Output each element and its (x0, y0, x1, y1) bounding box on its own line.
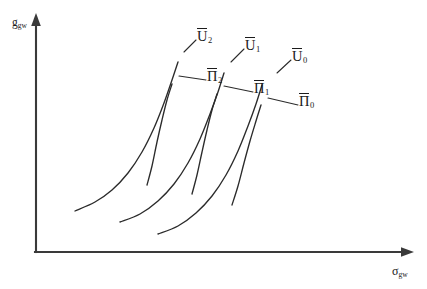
y-axis-arrowhead (31, 13, 41, 26)
curve-label-subscript: 1 (255, 44, 260, 54)
y-axis-label: ggw (12, 17, 27, 29)
curve-u2 (75, 62, 178, 211)
curve-label-symbol: Π (207, 68, 217, 84)
axes-group (31, 13, 414, 257)
figure-root: ggw σgw U2U1U0Π2Π1Π0 (0, 0, 427, 289)
leader-pi0 (268, 98, 298, 105)
curve-label-subscript: 1 (264, 87, 269, 97)
curve-label-subscript: 0 (309, 100, 314, 110)
leaders-group (179, 40, 298, 105)
diagram-canvas (0, 0, 427, 289)
x-axis-arrowhead (401, 247, 414, 257)
curve-label-subscript: 0 (302, 55, 307, 65)
leader-pi1 (224, 86, 253, 92)
curve-label-subscript: 2 (207, 35, 212, 45)
x-axis-label: σgw (392, 265, 408, 277)
y-axis-label-symbol: g (12, 16, 18, 28)
leader-u2 (184, 40, 196, 52)
curve-label-u2: U2 (197, 28, 212, 44)
curve-u0 (158, 85, 262, 234)
curve-label-symbol: Π (299, 93, 309, 109)
curve-label-u0: U0 (292, 48, 307, 64)
curve-label-symbol: U (292, 48, 302, 64)
curve-label-u1: U1 (245, 37, 260, 53)
curve-label-symbol: U (197, 28, 207, 44)
y-axis-label-subscript: gw (18, 21, 27, 30)
curve-label-symbol: Π (254, 80, 264, 96)
curve-label-pi2: Π2 (207, 68, 222, 84)
curve-pi1 (192, 94, 217, 194)
curve-label-pi1: Π1 (254, 80, 269, 96)
curve-label-pi0: Π0 (299, 93, 314, 109)
curve-label-symbol: U (245, 37, 255, 53)
x-axis-label-subscript: gw (398, 270, 407, 279)
leader-u0 (277, 60, 291, 73)
leader-u1 (231, 49, 244, 62)
leader-pi2 (179, 76, 206, 80)
curve-label-subscript: 2 (217, 75, 222, 85)
